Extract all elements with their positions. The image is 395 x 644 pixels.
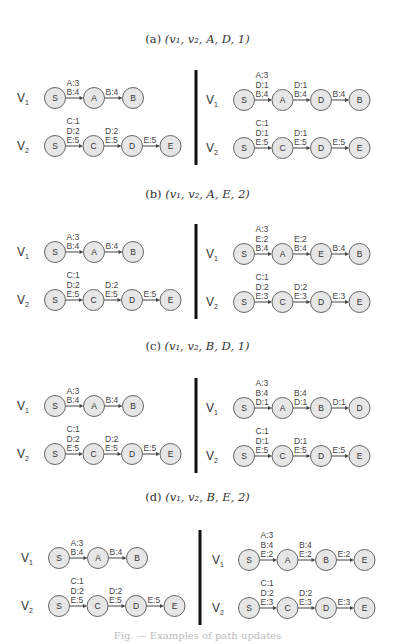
edge-label: C:1 [256, 426, 270, 436]
panel-title-c: (c) (v₁, v₂, B, D, 1) [0, 339, 395, 353]
node-label: E [362, 603, 368, 613]
node-label: A [91, 401, 97, 411]
arrowhead-icon [307, 98, 311, 102]
arrowhead-icon [80, 404, 84, 408]
edge-label: D:1 [294, 128, 308, 138]
node-label: E [362, 555, 368, 565]
edge-label: E:2 [294, 234, 307, 244]
left-v2-chain: C:1D:2E:5SD:2E:5CE:5DE [45, 424, 182, 465]
panel-title-d: (d) (v₁, v₂, B, E, 2) [0, 490, 395, 504]
node-label: C [279, 143, 285, 153]
node-label: S [52, 295, 58, 305]
arrowhead-icon [122, 604, 126, 608]
edge-label: E:3 [338, 597, 351, 607]
edge-label: B:4 [67, 395, 80, 405]
panel-d: V1V2A:3B:4SB:4ABC:1D:2E:5SD:2E:5CE:5DEV1… [0, 520, 395, 629]
panel-c: V1V2A:3B:4SB:4ABC:1D:2E:5SD:2E:5CE:5DEV1… [0, 368, 395, 477]
row-label-v2: V2 [17, 139, 29, 154]
edge-label: D:2 [105, 126, 119, 136]
node-label: D [318, 95, 324, 105]
edge-label: E:5 [333, 137, 346, 147]
panel-label: (c) [145, 339, 164, 353]
node-label: B [134, 553, 140, 563]
edge-label: E:3 [299, 597, 312, 607]
panel-title-b: (b) (v₁, v₂, A, E, 2) [0, 187, 395, 201]
node-label: C [94, 601, 100, 611]
arrowhead-icon [312, 606, 316, 610]
panel-tuple: (v₁, v₂, A, D, 1) [165, 32, 250, 46]
edge-label: C:1 [67, 424, 81, 434]
edge-label: D:1 [333, 397, 347, 407]
arrowhead-icon [80, 250, 84, 254]
node-label: S [52, 141, 58, 151]
node-label: E [168, 295, 174, 305]
edge-label: B:4 [299, 540, 312, 550]
node-label: S [52, 401, 58, 411]
node-label: S [241, 403, 247, 413]
panel-b: V1V2A:3B:4SB:4ABC:1D:2E:5SD:2E:5CE:5DEV1… [0, 214, 395, 323]
node-label: D [129, 295, 135, 305]
right-v2-chain: C:1D:1E:5SD:1E:5CE:5DE [234, 426, 371, 467]
edge-label: B:4 [67, 241, 80, 251]
node-label: C [284, 603, 290, 613]
node-label: D [323, 603, 329, 613]
arrowhead-icon [345, 252, 349, 256]
panel-tuple: (v₁, v₂, B, E, 2) [165, 490, 250, 504]
row-label-v1: V1 [212, 553, 224, 568]
edge-label: B:4 [333, 89, 346, 99]
row-label-v2: V2 [206, 141, 218, 156]
edge-label: C:1 [67, 116, 81, 126]
arrowhead-icon [79, 298, 83, 302]
row-label-v2: V2 [206, 295, 218, 310]
arrowhead-icon [119, 404, 123, 408]
edge-label: D:1 [256, 80, 270, 90]
arrowhead-icon [268, 252, 272, 256]
panel-title-a: (a) (v₁, v₂, A, D, 1) [0, 32, 395, 46]
node-label: E [357, 143, 363, 153]
arrowhead-icon [350, 558, 354, 562]
node-label: S [241, 95, 247, 105]
edge-label: B:4 [261, 540, 274, 550]
left-v2-chain: C:1D:2E:5SD:2E:5CE:5DE [49, 576, 186, 617]
edge-label: D:1 [256, 128, 270, 138]
edge-label: B:4 [256, 89, 269, 99]
node-label: C [90, 449, 96, 459]
row-label-v1: V1 [206, 401, 218, 416]
arrowhead-icon [273, 558, 277, 562]
edge-label: E:2 [338, 549, 351, 559]
node-label: A [91, 247, 97, 257]
arrowhead-icon [119, 250, 123, 254]
edge-label: E:3 [261, 597, 274, 607]
panel-label: (d) [145, 490, 165, 504]
node-label: E [318, 249, 324, 259]
right-v2-chain: C:1D:2E:3SD:2E:3CE:3DE [239, 578, 376, 619]
row-label-v2: V2 [17, 293, 29, 308]
node-label: C [90, 295, 96, 305]
arrowhead-icon [118, 452, 122, 456]
divider [195, 70, 198, 165]
node-label: B [318, 403, 324, 413]
edge-label: C:1 [256, 118, 270, 128]
row-label-v1: V1 [21, 551, 33, 566]
arrowhead-icon [312, 558, 316, 562]
edge-label: E:3 [333, 291, 346, 301]
edge-label: B:4 [106, 241, 119, 251]
node-label: S [52, 247, 58, 257]
arrowhead-icon [345, 300, 349, 304]
edge-label: B:4 [110, 547, 123, 557]
row-label-v1: V1 [17, 399, 29, 414]
arrowhead-icon [307, 300, 311, 304]
edge-label: B:4 [294, 243, 307, 253]
node-label: S [246, 603, 252, 613]
edge-label: B:4 [106, 87, 119, 97]
arrowhead-icon [345, 146, 349, 150]
node-label: A [91, 93, 97, 103]
edge-label: E:5 [67, 135, 80, 145]
node-label: B [357, 95, 363, 105]
edge-label: C:1 [256, 272, 270, 282]
arrowhead-icon [156, 144, 160, 148]
node-label: S [56, 601, 62, 611]
edge-label: E:5 [109, 595, 122, 605]
edge-label: B:4 [333, 243, 346, 253]
panel-label: (b) [145, 187, 165, 201]
